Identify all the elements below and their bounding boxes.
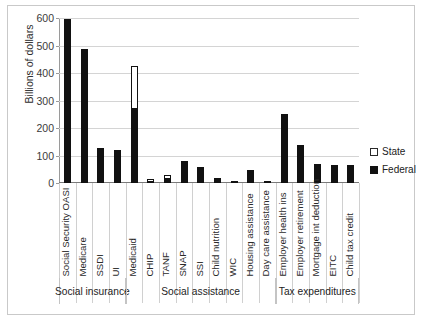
- chart-container: Billions of dollars 0100200300400500600 …: [7, 5, 415, 315]
- category-label: Medicare: [78, 238, 88, 277]
- category-label: Child tax credit: [345, 214, 355, 277]
- y-tick-mark: [56, 128, 59, 129]
- y-tick-label: 600: [36, 12, 54, 24]
- category-label: SSI: [195, 262, 205, 277]
- y-axis-title: Billions of dollars: [23, 0, 35, 134]
- y-tick-label: 300: [36, 95, 54, 107]
- category-label: Medicaid: [128, 239, 138, 277]
- bar-segment-federal: [114, 150, 121, 183]
- legend-swatch-federal-icon: [370, 166, 378, 174]
- group-label: Tax expenditures: [279, 286, 356, 297]
- y-tick-mark: [56, 156, 59, 157]
- category-label: Housing assistance: [245, 194, 255, 277]
- gridline: [59, 46, 359, 47]
- y-tick-label: 0: [48, 177, 54, 189]
- legend-item-federal[interactable]: Federal: [370, 164, 422, 175]
- y-tick-mark: [56, 73, 59, 74]
- group-label: Social insurance: [55, 286, 130, 297]
- bar-segment-state: [131, 66, 138, 108]
- bar-segment-federal: [81, 49, 88, 183]
- bar-segment-federal: [64, 19, 71, 183]
- gridline: [59, 18, 359, 19]
- category-label: Child nutrition: [212, 218, 222, 277]
- bar-segment-federal: [181, 161, 188, 183]
- group-label-cell: Social assistance: [126, 278, 276, 304]
- group-label: Social assistance: [161, 286, 240, 297]
- bar[interactable]: [347, 165, 354, 183]
- legend: State Federal: [370, 146, 422, 182]
- legend-swatch-state-icon: [370, 148, 378, 156]
- bar-segment-federal: [331, 165, 338, 183]
- bar[interactable]: [81, 49, 88, 183]
- bar[interactable]: [297, 145, 304, 183]
- bar[interactable]: [64, 19, 71, 183]
- y-tick-mark: [56, 18, 59, 19]
- gridline: [59, 73, 359, 74]
- bar[interactable]: [247, 170, 254, 183]
- category-label: Employer health ins: [278, 193, 288, 277]
- category-label: WIC: [228, 258, 238, 277]
- bar[interactable]: [131, 66, 138, 183]
- y-tick-mark: [56, 101, 59, 102]
- category-label: Day care assistance: [262, 191, 272, 277]
- group-label-cell: Social insurance: [59, 278, 126, 304]
- gridline: [59, 101, 359, 102]
- bar-segment-federal: [247, 170, 254, 183]
- y-tick-label: 100: [36, 150, 54, 162]
- category-label: Employer retirement: [295, 191, 305, 277]
- bar-segment-federal: [197, 168, 204, 183]
- y-tick-label: 500: [36, 40, 54, 52]
- bar-segment-federal: [97, 148, 104, 183]
- bar-segment-federal: [281, 114, 288, 183]
- bar[interactable]: [197, 167, 204, 183]
- bar[interactable]: [97, 148, 104, 183]
- y-tick-mark: [56, 46, 59, 47]
- bar[interactable]: [281, 114, 288, 183]
- legend-label-state: State: [382, 146, 405, 157]
- category-label: SSDI: [95, 255, 105, 277]
- category-label: CHIP: [145, 254, 155, 277]
- category-label: Social Security OASI: [62, 188, 72, 277]
- legend-item-state[interactable]: State: [370, 146, 422, 157]
- category-label: TANF: [162, 253, 172, 277]
- bar[interactable]: [331, 165, 338, 183]
- plot-area: 0100200300400500600: [59, 18, 359, 183]
- category-label: Mortgage int deduction: [312, 179, 322, 277]
- group-label-cell: Tax expenditures: [276, 278, 359, 304]
- category-label: SNAP: [178, 251, 188, 277]
- bar[interactable]: [181, 161, 188, 183]
- bar[interactable]: [114, 150, 121, 183]
- category-separator: [359, 183, 360, 303]
- legend-label-federal: Federal: [382, 164, 416, 175]
- bar-segment-federal: [131, 108, 138, 183]
- category-label: EITC: [328, 255, 338, 277]
- category-label: UI: [112, 267, 122, 277]
- group-band: Social insuranceSocial assistanceTax exp…: [59, 278, 359, 304]
- gridline: [59, 128, 359, 129]
- bar[interactable]: [164, 175, 171, 183]
- bar-segment-federal: [297, 145, 304, 183]
- y-tick-label: 200: [36, 122, 54, 134]
- y-tick-label: 400: [36, 67, 54, 79]
- bar-segment-federal: [347, 165, 354, 183]
